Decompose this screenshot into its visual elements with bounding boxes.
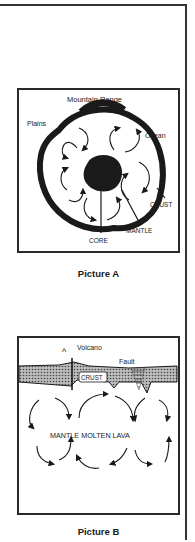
earth-cross-section-illustration: Mountain Range Plains Ocean CRUST CORE M… — [19, 90, 178, 251]
label-mantle-molten-lava: MANTLE MOLTEN LAVA — [50, 431, 130, 440]
label-mantle: MANTLE — [126, 227, 153, 234]
picture-a-caption: Picture A — [17, 268, 180, 279]
outer-frame-right-border — [185, 4, 187, 540]
picture-a-diagram: Mountain Range Plains Ocean CRUST CORE M… — [17, 88, 180, 253]
picture-b-caption: Picture B — [17, 526, 180, 537]
label-fault: Fault — [119, 358, 135, 365]
label-plains: Plains — [27, 120, 47, 127]
plate-tectonics-illustration: ^ Volcano Fault CRUST MANTLE MOLTEN LAVA — [19, 338, 178, 513]
label-core: CORE — [89, 237, 108, 244]
picture-b-diagram: ^ Volcano Fault CRUST MANTLE MOLTEN LAVA — [17, 336, 180, 515]
label-mountain-range: Mountain Range — [67, 95, 122, 104]
label-ocean: Ocean — [145, 132, 166, 139]
volcano-symbol: ^ — [62, 347, 67, 357]
label-crust: CRUST — [150, 201, 172, 208]
outer-frame-top-border — [0, 4, 187, 6]
core-blob — [84, 155, 122, 191]
label-volcano: Volcano — [77, 344, 102, 351]
label-crust: CRUST — [81, 374, 103, 381]
